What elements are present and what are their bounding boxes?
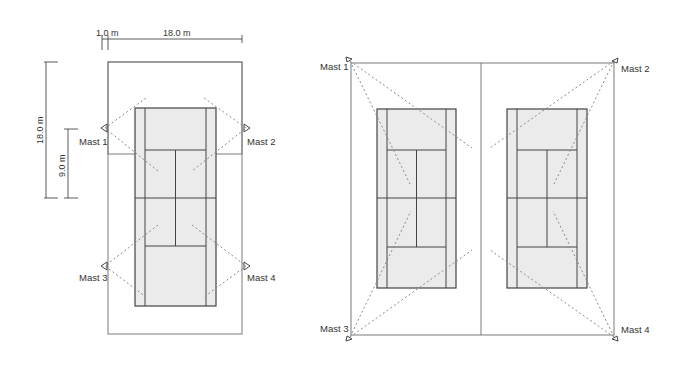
mast-2: Mast 2 bbox=[612, 58, 650, 74]
mast-1-label: Mast 1 bbox=[79, 136, 108, 147]
top-dimension: 1.0 m 18.0 m bbox=[96, 28, 242, 50]
double-court-diagram: Mast 1 Mast 2 Mast 3 Mast 4 bbox=[320, 57, 650, 341]
mast-icon bbox=[244, 262, 250, 270]
mast-3-label: Mast 3 bbox=[79, 272, 108, 283]
mast-icon bbox=[101, 262, 107, 270]
mast-3-label: Mast 3 bbox=[320, 323, 349, 334]
tennis-court bbox=[135, 108, 216, 306]
tennis-court-right bbox=[507, 109, 587, 288]
mast-1-label: Mast 1 bbox=[320, 61, 349, 72]
mast-2-label: Mast 2 bbox=[621, 63, 650, 74]
mast-4-label: Mast 4 bbox=[247, 272, 276, 283]
mast-2-label: Mast 2 bbox=[247, 136, 276, 147]
mast-4-label: Mast 4 bbox=[621, 324, 650, 335]
dim-1m-label: 1.0 m bbox=[96, 28, 119, 38]
mast-3: Mast 3 bbox=[320, 323, 352, 341]
dim-18m-left-label: 18.0 m bbox=[35, 116, 45, 144]
dim-9m-label: 9.0 m bbox=[57, 154, 67, 177]
mast-4: Mast 4 bbox=[612, 324, 650, 341]
single-court-diagram: 1.0 m 18.0 m 18.0 m 9.0 m bbox=[35, 28, 276, 334]
left-dimension: 18.0 m 9.0 m bbox=[35, 62, 78, 198]
tennis-court-left bbox=[377, 109, 456, 288]
mast-3: Mast 3 bbox=[79, 262, 108, 283]
mast-2: Mast 2 bbox=[244, 124, 276, 147]
mast-icon bbox=[244, 124, 250, 132]
mast-1: Mast 1 bbox=[79, 124, 108, 147]
mast-icon bbox=[101, 124, 107, 132]
mast-4: Mast 4 bbox=[244, 262, 276, 283]
lighting-layout-canvas: 1.0 m 18.0 m 18.0 m 9.0 m bbox=[0, 0, 686, 370]
mast-1: Mast 1 bbox=[320, 57, 352, 72]
dim-18m-top-label: 18.0 m bbox=[163, 28, 191, 38]
